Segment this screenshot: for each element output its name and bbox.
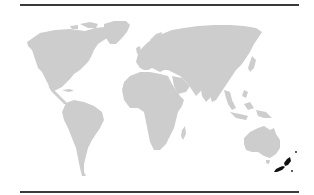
arctic-islands	[70, 22, 98, 29]
tasmania	[266, 160, 270, 164]
southeast-asia	[224, 90, 272, 120]
greenland	[104, 21, 130, 44]
south-america	[62, 100, 104, 176]
island-dot-north	[295, 151, 297, 153]
australia	[244, 126, 280, 158]
japan	[248, 56, 256, 72]
island-dot-south	[291, 170, 293, 172]
madagascar	[181, 126, 186, 140]
world-map	[0, 0, 314, 195]
bottom-rule	[20, 191, 299, 193]
north-america	[27, 27, 112, 92]
caribbean	[62, 89, 74, 92]
new-zealand-highlight	[274, 157, 291, 172]
